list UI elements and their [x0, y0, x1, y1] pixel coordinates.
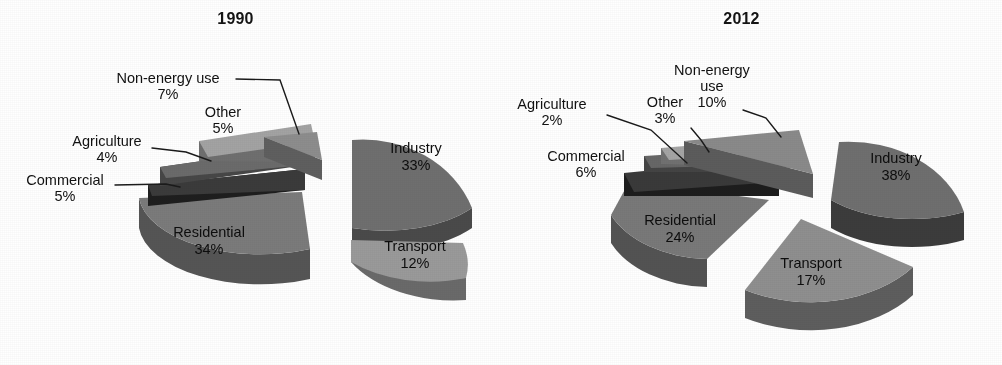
chart-panel-1990: 1990 [0, 0, 501, 365]
callout-agriculture-2012: Agriculture 2% [499, 96, 605, 128]
slice-label-transport-1990: Transport 12% [363, 238, 467, 271]
energy-consumption-pie-figure: 1990 [0, 0, 1002, 365]
callout-non-energy-use-1990: Non-energy use 7% [94, 70, 242, 102]
callout-commercial-2012: Commercial 6% [531, 148, 641, 180]
callout-commercial-1990: Commercial 5% [15, 172, 115, 204]
slice-label-industry-2012: Industry 38% [848, 150, 944, 183]
chart-panel-2012: 2012 [501, 0, 1002, 365]
callout-agriculture-1990: Agriculture 4% [57, 133, 157, 165]
slice-label-residential-1990: Residential 34% [148, 224, 270, 257]
slice-label-residential-2012: Residential 24% [619, 212, 741, 245]
callout-other-2012: Other 3% [629, 94, 701, 126]
callout-other-1990: Other 5% [187, 104, 259, 136]
slice-label-industry-1990: Industry 33% [368, 140, 464, 173]
slice-label-transport-2012: Transport 17% [759, 255, 863, 288]
